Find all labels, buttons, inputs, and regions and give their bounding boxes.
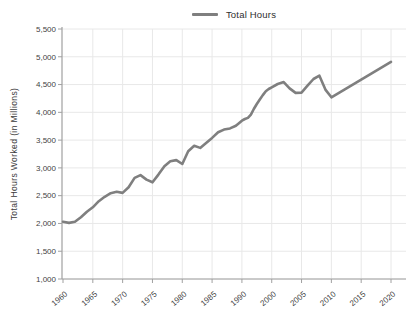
x-tick-label: 1975 <box>139 289 159 308</box>
x-tick-label: 2000 <box>259 289 279 308</box>
y-tick-label: 4,500 <box>36 80 57 89</box>
y-tick-label: 5,500 <box>36 25 57 34</box>
x-tick-label: 1980 <box>169 289 189 308</box>
chart-container: Total Hours Total Hours Worked (in Milli… <box>0 0 414 314</box>
x-tick-label: 2015 <box>348 289 368 308</box>
y-tick-label: 4,000 <box>36 108 57 117</box>
x-tick-label: 2005 <box>288 289 308 308</box>
x-tick-label: 2020 <box>378 289 398 308</box>
y-tick-label: 3,000 <box>36 164 57 173</box>
x-tick-label: 1990 <box>229 289 249 308</box>
x-tick-label: 1960 <box>50 289 70 308</box>
y-tick-label: 3,500 <box>36 136 57 145</box>
x-tick-label: 1985 <box>199 289 219 308</box>
y-tick-label: 5,000 <box>36 53 57 62</box>
y-tick-label: 2,500 <box>36 191 57 200</box>
y-tick-label: 2,000 <box>36 219 57 228</box>
y-tick-label: 1,500 <box>36 247 57 256</box>
y-tick-label: 1,000 <box>36 275 57 284</box>
total-hours-line <box>63 62 391 223</box>
x-tick-label: 1970 <box>110 289 130 308</box>
x-tick-label: 2010 <box>318 289 338 308</box>
x-tick-label: 1965 <box>80 289 100 308</box>
line-chart-canvas: 5,5005,0004,5004,0003,5003,0002,5002,000… <box>0 0 414 314</box>
